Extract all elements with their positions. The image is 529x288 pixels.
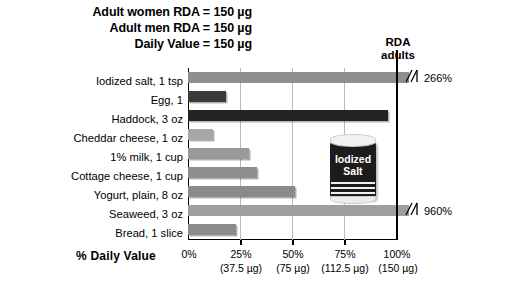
value-label-seaweed: 960% <box>424 205 452 217</box>
x-axis-title: % Daily Value <box>76 249 156 263</box>
bar-bread[interactable] <box>188 224 236 235</box>
rda-header-block: Adult women RDA = 150 µg Adult men RDA =… <box>0 4 252 52</box>
bar-haddock[interactable] <box>188 110 388 121</box>
rda-caption-line2: adults <box>362 49 434 62</box>
tick-label-75: 75% <box>328 248 362 260</box>
category-label: Yogurt, plain, 8 oz <box>8 189 183 201</box>
category-label: Egg, 1 <box>8 94 183 106</box>
rda-reference-line <box>396 50 398 240</box>
category-label: Iodized salt, 1 tsp <box>8 75 183 87</box>
category-label: Bread, 1 slice <box>8 227 183 239</box>
tick-label-100: 100% <box>378 248 416 260</box>
bar-iodized-salt[interactable] <box>188 72 409 83</box>
rda-women-line: Adult women RDA = 150 µg <box>0 4 252 20</box>
can-base <box>330 196 376 204</box>
tick-sublabel-25: (37.5 µg) <box>212 262 270 274</box>
category-label: Haddock, 3 oz <box>8 113 183 125</box>
bar-seaweed[interactable] <box>188 205 409 216</box>
bar-cottage-cheese[interactable] <box>188 167 257 178</box>
bar-egg[interactable] <box>188 91 226 102</box>
can-label-line2: Salt <box>330 165 376 177</box>
daily-value-line: Daily Value = 150 µg <box>0 36 252 52</box>
axis-break-mark-icon <box>404 202 420 216</box>
iodized-salt-can-illustration: Iodized Salt <box>328 134 380 204</box>
tick-sublabel-50: (75 µg) <box>268 262 318 274</box>
bar-milk[interactable] <box>188 148 249 159</box>
bar-yogurt[interactable] <box>188 186 295 197</box>
tick-mark-50 <box>292 240 294 245</box>
can-lid <box>330 134 376 147</box>
can-label-text: Iodized Salt <box>330 153 376 177</box>
rda-men-line: Adult men RDA = 150 µg <box>0 20 252 36</box>
chart-page: Adult women RDA = 150 µg Adult men RDA =… <box>0 0 529 288</box>
can-stripe <box>331 192 375 194</box>
rda-adults-caption: RDA adults <box>362 36 434 62</box>
tick-mark-25 <box>240 240 242 245</box>
rda-caption-line1: RDA <box>362 36 434 49</box>
can-stripe <box>331 187 375 189</box>
bar-cheddar-cheese[interactable] <box>188 129 213 140</box>
category-label: Seaweed, 3 oz <box>8 208 183 220</box>
can-label-line1: Iodized <box>330 153 376 165</box>
tick-sublabel-75: (112.5 µg) <box>314 262 376 274</box>
tick-mark-75 <box>344 240 346 245</box>
can-stripe <box>331 182 375 184</box>
tick-label-25: 25% <box>224 248 258 260</box>
tick-sublabel-100: (150 µg) <box>372 262 424 274</box>
category-label: Cottage cheese, 1 cup <box>8 170 183 182</box>
value-label-iodized-salt: 266% <box>424 72 452 84</box>
category-label: Cheddar cheese, 1 oz <box>8 132 183 144</box>
tick-label-50: 50% <box>276 248 310 260</box>
tick-label-0: 0% <box>178 248 200 260</box>
axis-break-mark-icon <box>404 69 420 83</box>
category-label: 1% milk, 1 cup <box>8 151 183 163</box>
